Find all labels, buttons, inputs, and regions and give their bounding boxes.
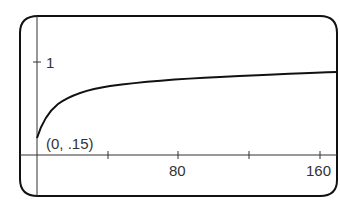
point-annotation: (0, .15)	[46, 135, 94, 152]
x-tick-label-160: 160	[306, 162, 331, 179]
chart-frame: 1 (0, .15) 80 160	[0, 0, 340, 211]
y-tick-label-1: 1	[46, 54, 54, 71]
x-tick-label-80: 80	[169, 162, 186, 179]
data-curve	[37, 72, 337, 138]
